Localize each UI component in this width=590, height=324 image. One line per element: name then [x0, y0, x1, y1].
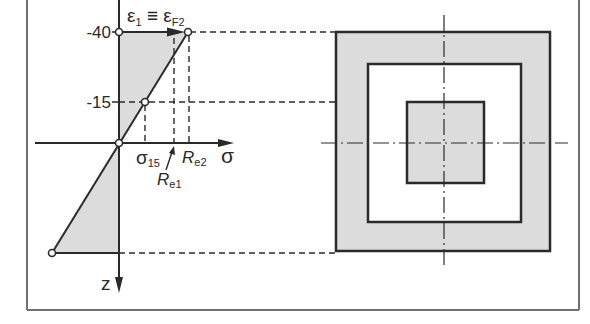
cross-section — [336, 32, 550, 251]
node-bottom — [49, 250, 56, 257]
node-top-right — [185, 29, 192, 36]
z-axis-label: z — [101, 273, 111, 294]
re2-label: Re2 — [182, 148, 207, 168]
tick-label-minus15: -15 — [86, 93, 111, 112]
stress-diagram-canvas: ε1 ≡ εF2 -40 -15 σ15 Re2 Re1 σ z — [0, 0, 590, 324]
strain-label: ε1 ≡ εF2 — [127, 5, 185, 28]
sigma15-label: σ15 — [136, 147, 160, 169]
node-top-left — [116, 29, 123, 36]
sigma-axis-label: σ — [221, 144, 234, 167]
node-origin — [116, 140, 123, 147]
sigma-axis — [35, 139, 234, 147]
re1-label: Re1 — [157, 170, 182, 190]
node-minus15 — [142, 99, 149, 106]
re1-leader — [166, 146, 175, 170]
z-axis-arrow-icon — [115, 277, 123, 293]
tick-label-minus40: -40 — [86, 23, 111, 42]
